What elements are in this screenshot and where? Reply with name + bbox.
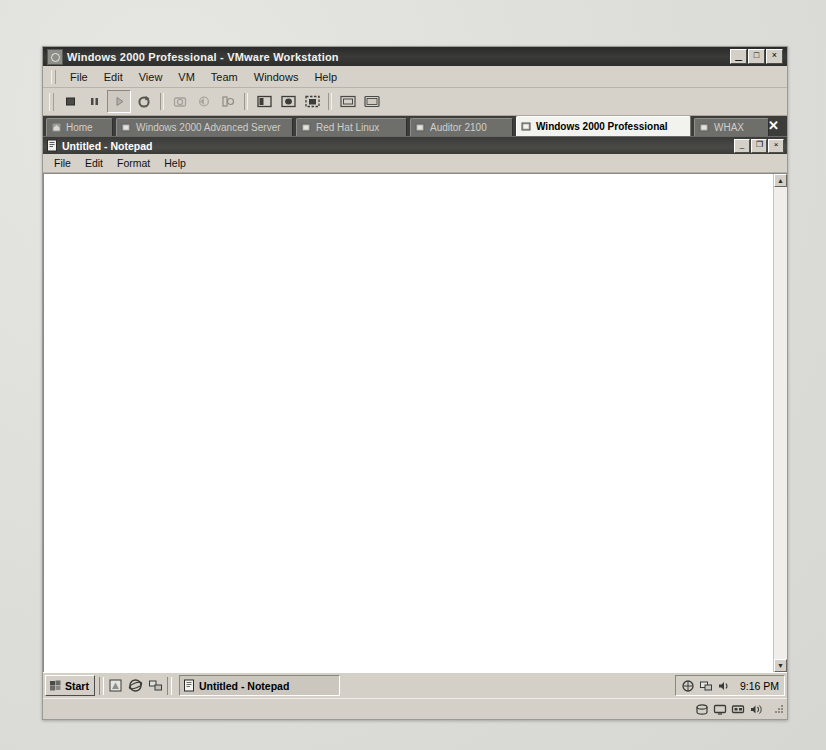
vmware-logo-icon	[47, 49, 63, 65]
revert-snapshot-button[interactable]	[193, 91, 215, 112]
taskbar-clock[interactable]: 9:16 PM	[740, 680, 779, 692]
notepad-close-button[interactable]: ×	[768, 139, 784, 153]
toolbar-grip[interactable]	[49, 93, 54, 111]
taskbar-item-notepad[interactable]: Untitled - Notepad	[179, 675, 340, 696]
notepad-restore-glyph: ❐	[752, 140, 766, 150]
tab-windows-2000-professional[interactable]: Windows 2000 Professional	[516, 116, 691, 136]
play-icon	[113, 95, 126, 108]
show-desktop-icon	[108, 678, 123, 693]
quick-switch-icon	[281, 95, 296, 108]
vmware-menu-bar: File Edit View VM Team Windows Help	[43, 66, 787, 88]
guest-os-screen[interactable]: Untitled - Notepad _ ❐ × File Edit Forma…	[43, 136, 787, 698]
snapshot-camera-icon	[173, 95, 187, 108]
notepad-window: Untitled - Notepad _ ❐ × File Edit Forma…	[43, 137, 787, 672]
reset-circular-arrow-icon	[137, 95, 151, 109]
tab-windows-2000-advanced-server[interactable]: Windows 2000 Advanced Server	[116, 118, 293, 136]
close-button[interactable]: ×	[766, 49, 783, 64]
notepad-icon	[46, 139, 59, 152]
taskbar-task-buttons: Untitled - Notepad	[176, 675, 675, 696]
vmware-workstation-window: Windows 2000 Professional - VMware Works…	[42, 46, 788, 720]
taskbar-divider	[99, 677, 104, 695]
notepad-window-controls: _ ❐ ×	[734, 139, 784, 153]
network-connection-tray-icon	[681, 679, 695, 693]
notepad-restore-button[interactable]: ❐	[751, 139, 767, 153]
start-button-label: Start	[65, 680, 89, 692]
tab-auditor-2100[interactable]: Auditor 2100	[410, 118, 513, 136]
menu-team[interactable]: Team	[203, 69, 246, 85]
close-tab-button[interactable]: ✕	[768, 119, 779, 132]
sound-status-icon	[749, 703, 763, 716]
summary-view-button[interactable]	[337, 91, 359, 112]
taskbar-item-label: Untitled - Notepad	[199, 680, 289, 692]
menu-file[interactable]: File	[62, 69, 96, 85]
system-tray: 9:16 PM	[675, 675, 785, 696]
menu-view[interactable]: View	[131, 69, 171, 85]
notepad-minimize-glyph: _	[735, 140, 749, 150]
pause-icon	[88, 95, 101, 108]
notepad-menu-bar: File Edit Format Help	[43, 154, 787, 173]
start-button[interactable]: Start	[45, 675, 95, 696]
toolbar-separator	[244, 93, 248, 110]
power-off-button[interactable]	[59, 91, 81, 112]
scroll-down-button[interactable]: ▼	[774, 659, 787, 672]
menu-windows[interactable]: Windows	[246, 69, 307, 85]
windows-taskbar: Start	[43, 672, 787, 698]
snapshot-button[interactable]	[169, 91, 191, 112]
vmware-title-bar: Windows 2000 Professional - VMware Works…	[43, 47, 787, 66]
quick-switch-button[interactable]	[277, 91, 299, 112]
notepad-menu-edit[interactable]: Edit	[78, 156, 110, 170]
vm-icon	[521, 121, 532, 132]
snapshot-manager-button[interactable]	[217, 91, 239, 112]
full-screen-button[interactable]	[301, 91, 323, 112]
window-resize-grip[interactable]	[771, 702, 785, 716]
vm-icon	[301, 122, 312, 133]
hard-disk-status-icon	[695, 703, 709, 716]
vmware-window-controls: _ □ ×	[730, 49, 783, 64]
notepad-vertical-scrollbar[interactable]: ▲ ▼	[773, 174, 787, 672]
toolbar-separator	[328, 93, 332, 110]
suspend-button[interactable]	[83, 91, 105, 112]
notepad-menu-format[interactable]: Format	[110, 156, 157, 170]
notepad-minimize-button[interactable]: _	[734, 139, 750, 153]
quick-launch-bar	[108, 678, 163, 693]
notepad-text-area[interactable]	[44, 174, 773, 672]
maximize-button[interactable]: □	[748, 49, 765, 64]
toolbar-separator	[160, 93, 164, 110]
network-places-icon	[148, 678, 163, 693]
console-view-icon	[364, 95, 380, 108]
vm-icon	[415, 122, 426, 133]
summary-view-icon	[340, 95, 356, 108]
taskbar-divider	[167, 677, 172, 695]
notepad-menu-help[interactable]: Help	[157, 156, 193, 170]
menu-edit[interactable]: Edit	[96, 69, 131, 85]
show-sidebar-button[interactable]	[253, 91, 275, 112]
minimize-button[interactable]: _	[730, 49, 747, 64]
vm-icon	[699, 122, 710, 133]
menu-vm[interactable]: VM	[170, 69, 203, 85]
internet-explorer-icon	[128, 678, 143, 693]
tab-label: Windows 2000 Advanced Server	[136, 122, 281, 133]
tab-home-label: Home	[66, 122, 93, 133]
reset-button[interactable]	[133, 91, 155, 112]
vmware-status-icons	[689, 703, 769, 716]
notepad-icon	[183, 679, 196, 692]
tab-label: WHAX	[714, 122, 744, 133]
vmware-toolbar	[43, 88, 787, 116]
tab-whax[interactable]: WHAX	[694, 118, 769, 136]
sidebar-panel-icon	[257, 95, 272, 108]
scroll-down-arrow-icon: ▼	[777, 662, 784, 669]
tab-red-hat-linux[interactable]: Red Hat Linux	[296, 118, 407, 136]
power-on-button[interactable]	[107, 90, 131, 113]
stop-square-icon	[64, 95, 77, 108]
menu-help[interactable]: Help	[306, 69, 345, 85]
tab-home[interactable]: Home	[46, 118, 113, 136]
snapshot-manager-icon	[221, 95, 235, 108]
tab-label-active: Windows 2000 Professional	[536, 121, 668, 132]
console-view-button[interactable]	[361, 91, 383, 112]
minimize-glyph: _	[731, 50, 746, 58]
home-icon	[51, 122, 62, 133]
notepad-menu-file[interactable]: File	[47, 156, 78, 170]
notepad-title-bar: Untitled - Notepad _ ❐ ×	[43, 137, 787, 154]
scroll-up-button[interactable]: ▲	[774, 174, 787, 187]
maximize-glyph: □	[749, 50, 764, 61]
